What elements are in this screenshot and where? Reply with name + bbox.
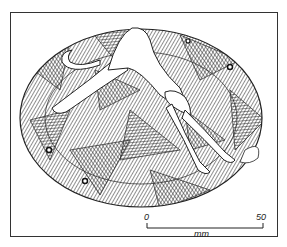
scale-end-label: 50 bbox=[256, 212, 266, 222]
scale-start-label: 0 bbox=[144, 212, 149, 222]
scale-unit-label: mm bbox=[194, 229, 209, 239]
plaque-drawing bbox=[0, 0, 287, 247]
scale-bar bbox=[147, 223, 263, 228]
